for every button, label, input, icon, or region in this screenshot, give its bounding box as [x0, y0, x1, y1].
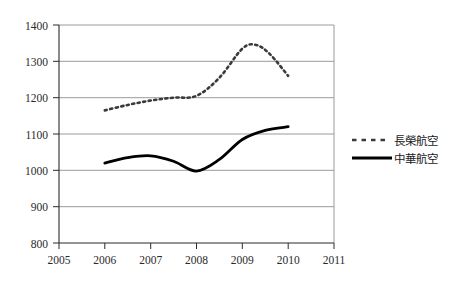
y-tick-label: 1300 [25, 56, 48, 68]
y-tick-label: 1400 [25, 20, 48, 32]
chart-legend: 長榮航空 中華航空 [352, 134, 438, 165]
y-tick-label: 800 [31, 238, 49, 250]
x-tick-label: 2009 [231, 254, 254, 266]
legend-entry-china-airlines: 中華航空 [352, 152, 438, 165]
y-axis-tick-labels: 1400 1300 1200 1100 1000 900 800 [25, 20, 48, 250]
x-tick-label: 2006 [93, 254, 116, 266]
y-tick-label: 1100 [25, 129, 48, 141]
legend-label: 中華航空 [394, 152, 438, 165]
y-axis-ticks [53, 25, 59, 243]
y-tick-label: 1000 [25, 165, 48, 177]
x-axis-tick-labels: 2005 2006 2007 2008 2009 2010 2011 [48, 254, 346, 266]
y-tick-label: 900 [31, 201, 49, 213]
chart-container: 1400 1300 1200 1100 1000 900 800 2005 20… [0, 0, 466, 281]
x-tick-label: 2005 [48, 254, 71, 266]
x-tick-label: 2010 [277, 254, 300, 266]
x-tick-label: 2008 [185, 254, 208, 266]
x-tick-label: 2007 [139, 254, 162, 266]
y-tick-label: 1200 [25, 92, 48, 104]
legend-label: 長榮航空 [394, 134, 438, 147]
x-axis-ticks [59, 243, 334, 249]
x-tick-label: 2011 [323, 254, 346, 266]
legend-entry-eva-air: 長榮航空 [352, 134, 438, 147]
line-chart: 1400 1300 1200 1100 1000 900 800 2005 20… [0, 0, 466, 281]
